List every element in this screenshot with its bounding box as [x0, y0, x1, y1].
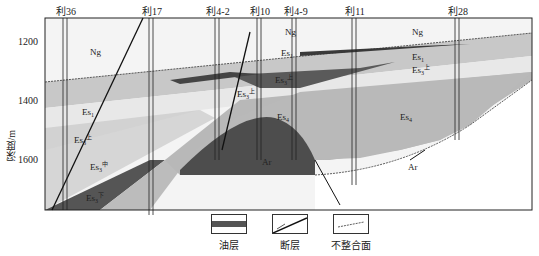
section-canvas: NgNgNgEs1Es1Es3上Es3上Es3上Es1Es3上Es3中Es3下E… — [0, 0, 539, 256]
stratum-label: Ar — [408, 162, 418, 172]
legend-fault-swatch — [272, 214, 308, 234]
legend-fault-label: 断层 — [280, 237, 300, 252]
stratum-label: Ng — [412, 27, 423, 37]
stratum-label: Ng — [90, 47, 101, 57]
stratum-label: Ng — [285, 27, 296, 37]
legend-oil-layer-swatch — [211, 214, 247, 234]
legend-unconformity-swatch — [333, 214, 369, 234]
legend-unconformity-label: 不整合面 — [331, 237, 371, 252]
legend-oil-layer-label: 油层 — [219, 237, 239, 252]
stratum-label: Ar — [262, 157, 272, 167]
